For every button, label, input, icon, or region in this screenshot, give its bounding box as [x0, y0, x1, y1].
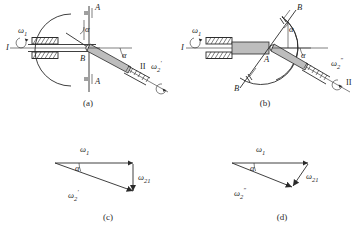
- cross-member-upper: [66, 33, 89, 48]
- panel-a-pivot-label: B: [80, 54, 85, 63]
- rotation-arrow-head-b: [199, 39, 203, 42]
- panel-a-output-shaft-label: II: [140, 62, 146, 71]
- caption-c: (c): [88, 212, 128, 222]
- panel-b-section-label-bottom: B: [234, 84, 239, 93]
- rotation-arrow-head: [25, 39, 29, 42]
- panel-a-angle-lower: α: [122, 51, 126, 60]
- section-tick-top-b: [280, 10, 290, 24]
- bearing-lower-b: [206, 52, 232, 59]
- vector-omega2-c: [55, 163, 133, 191]
- panel-b-omega1-label: ω1: [192, 26, 201, 37]
- vector-omega2-d: [232, 163, 292, 187]
- section-tick-bottom: [84, 74, 92, 84]
- panel-a: I ω1 A A B α α II ω2′: [0, 0, 178, 100]
- panel-c-omega21-label: ω21: [138, 173, 151, 184]
- yoke-arc: [35, 14, 71, 86]
- alpha-arc-upper: [80, 27, 84, 34]
- shaft-input-body-b: [232, 42, 269, 54]
- panel-b-omega2-label: ω2″: [331, 57, 343, 70]
- rotation-arrow-omega1: [16, 38, 26, 48]
- rotation-arrow-omega1-b: [190, 38, 200, 48]
- panel-c: ω1 α ω2′ ω21: [45, 145, 175, 205]
- caption-a: (a): [68, 98, 108, 108]
- panel-c-omega1-label: ω1: [80, 145, 89, 156]
- panel-b-angle-upper: α: [289, 25, 293, 34]
- panel-a-omega1-label: ω1: [18, 26, 27, 37]
- panel-a-omega2-label: ω2′: [151, 60, 162, 73]
- caption-d: (d): [262, 212, 302, 222]
- panel-b-pivot-label: A: [264, 55, 269, 64]
- panel-a-drawing: [0, 0, 178, 100]
- caption-b: (b): [245, 98, 285, 108]
- panel-a-section-label-top: A: [95, 3, 100, 12]
- panel-c-omega2-label: ω2′: [68, 189, 79, 202]
- panel-a-section-label-bottom: A: [95, 77, 100, 86]
- panel-d-omega2-label: ω2″: [234, 187, 246, 200]
- section-tick-top: [84, 8, 92, 18]
- panel-a-input-shaft-label: I: [6, 43, 9, 52]
- bearing-upper-b: [206, 38, 232, 45]
- panel-c-angle-label: α: [75, 164, 79, 173]
- panel-b-drawing: [178, 0, 358, 100]
- panel-b-angle-lower: α: [301, 51, 305, 60]
- panel-a-angle-upper: α: [85, 25, 89, 34]
- panel-b-section-label-top: B: [297, 3, 302, 12]
- rotation-arrow-omega2: [156, 84, 166, 94]
- panel-d: ω1 α ω2″ ω21: [222, 145, 352, 205]
- panel-c-drawing: [45, 145, 175, 205]
- panel-b: I ω1 B B A α α ω2″ II: [178, 0, 358, 100]
- panel-d-angle-label: α: [250, 164, 254, 173]
- panel-b-input-shaft-label: I: [181, 43, 184, 52]
- section-tick-bottom-b: [246, 68, 256, 82]
- panel-d-omega21-label: ω21: [306, 172, 319, 183]
- panel-d-omega1-label: ω1: [256, 145, 265, 156]
- panel-b-output-shaft-label: II: [346, 78, 352, 87]
